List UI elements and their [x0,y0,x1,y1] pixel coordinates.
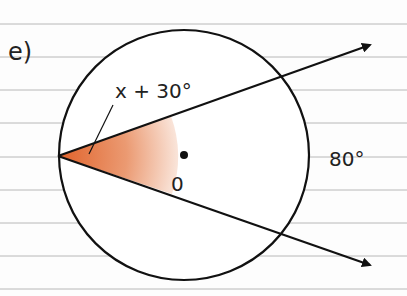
circle-theorem-figure: e) x + 30° 0 80° [0,0,407,296]
worksheet-diagram: e) x + 30° 0 80° [0,0,407,296]
arc-angle-label: 80° [329,147,364,171]
center-point-dot [180,151,188,159]
problem-label: e) [8,38,32,66]
center-label: 0 [171,172,184,196]
angle-label: x + 30° [115,79,192,103]
